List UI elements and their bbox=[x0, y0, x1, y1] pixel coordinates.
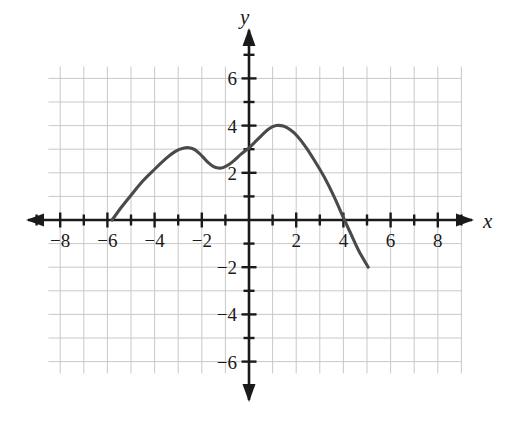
x-axis-right-arrow-icon bbox=[456, 214, 474, 227]
x-tick-label: −8 bbox=[50, 230, 70, 251]
y-tick-label: −6 bbox=[217, 352, 237, 373]
graph-figure: −8−6−4−22468642−2−4−6 x y bbox=[0, 0, 519, 421]
coordinate-plane: −8−6−4−22468642−2−4−6 x y bbox=[0, 0, 519, 421]
y-axis-bottom-arrow-icon bbox=[243, 384, 256, 402]
y-tick-label: −4 bbox=[217, 304, 238, 325]
x-tick-label: −2 bbox=[192, 230, 212, 251]
y-tick-label: 6 bbox=[228, 68, 238, 89]
x-tick-label: −6 bbox=[97, 230, 117, 251]
x-tick-label: 4 bbox=[339, 230, 349, 251]
x-tick-label: −4 bbox=[144, 230, 165, 251]
x-tick-label: 6 bbox=[386, 230, 396, 251]
y-axis-label: y bbox=[238, 5, 250, 29]
x-axis-label: x bbox=[482, 209, 493, 233]
y-tick-label: −2 bbox=[217, 257, 237, 278]
x-axis-left-arrow-icon bbox=[26, 214, 44, 227]
x-tick-label: 2 bbox=[291, 230, 301, 251]
y-axis-top-arrow-icon bbox=[243, 28, 256, 46]
axes bbox=[26, 28, 474, 402]
x-tick-label: 8 bbox=[433, 230, 443, 251]
y-tick-label: 4 bbox=[228, 116, 238, 137]
